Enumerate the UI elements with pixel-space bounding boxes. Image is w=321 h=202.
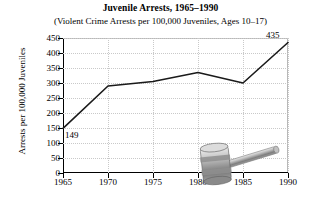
chart-title: Juvenile Arrests, 1965–1990 bbox=[0, 3, 321, 13]
chart-subtitle: (Violent Crime Arrests per 100,000 Juven… bbox=[0, 16, 321, 26]
y-axis-tick-labels: 050100150200250300350400450 bbox=[36, 38, 60, 173]
x-axis-tick-label: 1965 bbox=[54, 178, 72, 187]
gavel-icon bbox=[188, 136, 283, 186]
data-point-label: 435 bbox=[266, 31, 280, 40]
plot-area bbox=[63, 38, 288, 173]
data-point-label: 149 bbox=[65, 131, 79, 140]
x-axis-tick bbox=[288, 173, 289, 178]
x-axis-tick bbox=[63, 173, 64, 178]
x-axis-tick-label: 1970 bbox=[99, 178, 117, 187]
gridline-vertical bbox=[288, 38, 289, 173]
x-axis-tick bbox=[153, 173, 154, 178]
x-axis-tick bbox=[108, 173, 109, 178]
x-axis-tick-label: 1975 bbox=[144, 178, 162, 187]
chart-container: Juvenile Arrests, 1965–1990 (Violent Cri… bbox=[0, 0, 321, 202]
series-polyline bbox=[63, 43, 288, 129]
y-axis-title: Arrests per 100,000 Juveniles bbox=[17, 27, 27, 175]
